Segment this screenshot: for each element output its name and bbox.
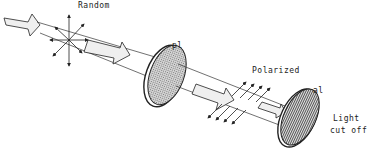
analyzer-label: al [313,86,324,95]
middle-beam-arrow [84,40,130,64]
polarized-label: Polarized [252,66,300,75]
cutoff-label-line1: Light [333,114,360,123]
polarizer-label: pl [172,41,183,50]
diagram-canvas [0,0,368,163]
random-label: Random [78,1,110,10]
random-polarization-icon [50,15,88,66]
cutoff-label-line2: cut off [330,126,367,135]
polarization-diagram: Random pl Polarized al Light cut off [0,0,368,163]
polarizer-disc [136,40,193,112]
incoming-beam-arrow [4,14,40,36]
